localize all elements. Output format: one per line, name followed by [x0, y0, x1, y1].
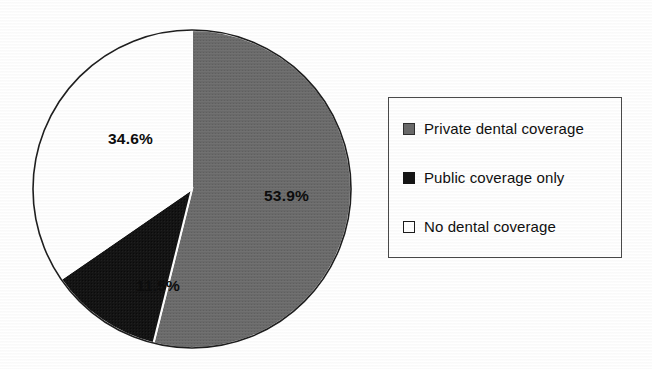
pie-chart: 53.9%11.5%34.6% [32, 26, 352, 352]
legend-swatch-white-icon [403, 221, 415, 233]
pie-chart-figure: 53.9%11.5%34.6% Private dental coverage … [0, 0, 652, 369]
legend-item-private-dental-coverage[interactable]: Private dental coverage [389, 114, 621, 144]
legend-item-public-coverage-only[interactable]: Public coverage only [389, 163, 621, 193]
legend-box: Private dental coverage Public coverage … [388, 97, 622, 258]
legend-item-label: Private dental coverage [424, 120, 584, 137]
legend-item-label: Public coverage only [424, 169, 564, 186]
legend-swatch-gray-icon [403, 123, 415, 135]
legend-item-no-dental-coverage[interactable]: No dental coverage [389, 212, 621, 242]
pie-slice-value-label: 34.6% [108, 130, 153, 147]
pie-chart-svg: 53.9%11.5%34.6% [32, 26, 352, 352]
pie-slice-value-label: 53.9% [264, 187, 309, 204]
pie-slice-value-label: 11.5% [136, 277, 180, 294]
legend-swatch-black-icon [403, 172, 415, 184]
legend-item-label: No dental coverage [424, 218, 556, 235]
legend-items: Private dental coverage Public coverage … [389, 98, 621, 257]
